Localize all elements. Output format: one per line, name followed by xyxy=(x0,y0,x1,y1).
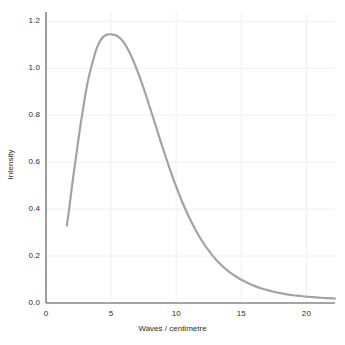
x-tick-label: 10 xyxy=(161,309,191,318)
x-tick-label: 15 xyxy=(226,309,256,318)
y-tick-label: 0.6 xyxy=(14,157,40,166)
x-tick-label: 20 xyxy=(291,309,321,318)
series-line xyxy=(67,34,335,298)
grid-lines xyxy=(46,12,335,303)
y-tick-label: 0.8 xyxy=(14,110,40,119)
axis-spines xyxy=(46,12,335,303)
x-axis-title: Waves / centimetre xyxy=(0,324,345,333)
y-tick-label: 1.2 xyxy=(14,16,40,25)
chart-container: 0.00.20.40.60.81.01.2 05101520 Waves / c… xyxy=(0,0,345,345)
y-tick-label: 0.4 xyxy=(14,204,40,213)
plot-canvas xyxy=(0,0,345,345)
y-tick-label: 0.0 xyxy=(14,298,40,307)
x-tick-label: 5 xyxy=(96,309,126,318)
y-tick-label: 1.0 xyxy=(14,63,40,72)
y-axis-title: Intensity xyxy=(6,135,15,195)
x-tick-label: 0 xyxy=(31,309,61,318)
series-lines xyxy=(67,34,335,298)
y-tick-label: 0.2 xyxy=(14,251,40,260)
